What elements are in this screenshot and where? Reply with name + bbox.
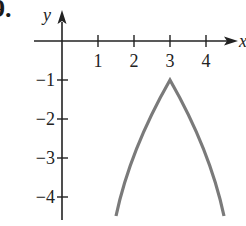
graph: x y 1 2 3 4 −1 −2 −3 −4 <box>0 0 246 226</box>
svg-text:4: 4 <box>202 51 211 71</box>
y-axis-arrow-icon <box>58 10 67 24</box>
y-tick-labels: −1 −2 −3 −4 <box>36 70 55 207</box>
svg-text:−4: −4 <box>36 187 55 207</box>
svg-text:1: 1 <box>94 51 103 71</box>
x-axis-label: x <box>238 31 246 51</box>
svg-text:−2: −2 <box>36 109 55 129</box>
y-axis-label: y <box>41 5 51 25</box>
svg-text:−1: −1 <box>36 70 55 90</box>
curve <box>116 80 224 216</box>
svg-text:−3: −3 <box>36 148 55 168</box>
x-tick-labels: 1 2 3 4 <box>94 51 211 71</box>
svg-text:2: 2 <box>130 51 139 71</box>
svg-text:3: 3 <box>166 51 175 71</box>
